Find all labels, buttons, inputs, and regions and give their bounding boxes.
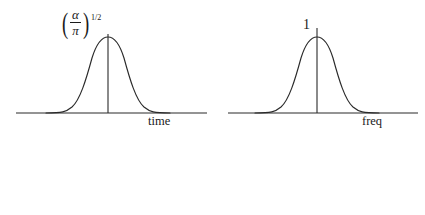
amplitude-exponent-time: 1/2 <box>91 13 101 22</box>
plot-panel-freq-domain: 1 freq <box>213 0 425 140</box>
close-paren-icon: ) <box>83 9 89 36</box>
plot-panel-time-domain: ( α π ) 1/2 time <box>0 0 212 140</box>
amplitude-label-freq: 1 <box>303 18 310 32</box>
gaussian-plot-time <box>0 0 212 140</box>
x-axis-label-freq: freq <box>362 115 382 128</box>
fraction-alpha-over-pi: α π <box>70 8 81 37</box>
figure-canvas: ( α π ) 1/2 time 1 freq <box>0 0 425 215</box>
x-axis-label-time: time <box>148 115 170 128</box>
gaussian-plot-freq <box>213 0 425 140</box>
fraction-numerator: α <box>70 8 81 22</box>
amplitude-label-time: ( α π ) 1/2 <box>60 8 101 37</box>
fraction-denominator: π <box>70 23 81 37</box>
equation-row: f(t)= ( α π ) 1/2e−αt2 ⇔ F(ξ)=eπ2ξ2/α <box>0 140 425 215</box>
paren-group-amplitude-time: ( α π ) <box>60 8 91 37</box>
open-paren-icon: ( <box>62 9 68 36</box>
